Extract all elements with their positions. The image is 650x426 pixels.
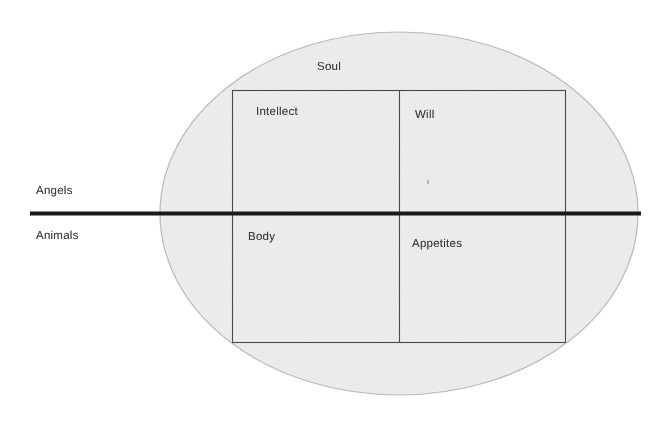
scan-speck-artifact: [427, 180, 429, 184]
label-animals: Animals: [36, 231, 79, 243]
label-intellect: Intellect: [256, 107, 298, 119]
label-appetites: Appetites: [412, 239, 462, 251]
label-will: Will: [415, 110, 435, 122]
label-angels: Angels: [36, 186, 73, 198]
label-soul: Soul: [317, 62, 341, 74]
label-body: Body: [248, 232, 275, 244]
diagram-canvas: Soul Intellect Will Body Appetites Angel…: [0, 0, 650, 426]
